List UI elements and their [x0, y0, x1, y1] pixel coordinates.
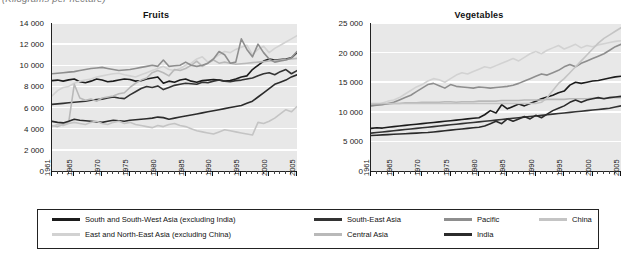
legend-item[interactable]: South and South-West Asia (excluding Ind…: [52, 215, 236, 224]
x-tick: [523, 171, 524, 174]
legend-label: East and North-East Asia (excluding Chin…: [85, 230, 231, 239]
plot-area-fruits: [51, 23, 297, 172]
x-tick: [168, 171, 169, 174]
x-tick: [107, 171, 108, 174]
x-tick: [512, 171, 513, 174]
y-tick-label: 20 000: [339, 48, 363, 57]
x-tick: [140, 171, 141, 174]
x-tick: [174, 171, 175, 174]
x-axis-labels-vegetables: 1961196519701975198019851990199520002005: [370, 176, 620, 210]
y-tick-label: 12 000: [20, 40, 44, 49]
y-tick-label: 6 000: [24, 103, 44, 112]
legend-item[interactable]: East and North-East Asia (excluding Chin…: [52, 230, 231, 239]
x-tick-label: 1980: [148, 159, 157, 176]
x-tick: [257, 171, 258, 174]
series-line: [371, 44, 621, 106]
legend-item[interactable]: Central Asia: [314, 230, 388, 239]
x-tick: [540, 171, 541, 174]
x-tick: [518, 171, 519, 174]
chart-panel-fruits: Fruits 02 0004 0006 0008 00010 00012 000…: [6, 10, 306, 23]
x-tick: [410, 171, 411, 174]
y-tick-label: 10 000: [339, 107, 363, 116]
series-line: [52, 39, 297, 74]
x-tick: [597, 171, 598, 174]
legend-item[interactable]: China: [539, 215, 592, 224]
x-tick-label: 1970: [93, 159, 102, 176]
x-tick: [489, 171, 490, 174]
y-tick-label: 4 000: [24, 124, 44, 133]
x-tick: [246, 171, 247, 174]
x-tick: [552, 171, 553, 174]
x-tick: [90, 171, 91, 174]
x-tick: [455, 171, 456, 174]
legend-swatch: [314, 218, 342, 222]
x-tick: [438, 171, 439, 174]
x-tick: [484, 171, 485, 174]
legend-swatch: [444, 233, 472, 237]
chart-legend: South and South-West Asia (excluding Ind…: [37, 209, 599, 249]
legend-swatch: [52, 233, 80, 236]
x-tick-label: 1995: [232, 159, 241, 176]
x-tick: [190, 171, 191, 174]
x-tick: [162, 171, 163, 174]
legend-label: South-East Asia: [347, 215, 401, 224]
x-tick: [201, 171, 202, 174]
x-tick: [274, 171, 275, 174]
y-tick-label: 10 000: [20, 61, 44, 70]
chart-title-fruits: Fruits: [6, 10, 306, 20]
x-tick: [461, 171, 462, 174]
x-tick: [404, 171, 405, 174]
x-tick: [546, 171, 547, 174]
chart-panel-vegetables: Vegetables 05 00010 00015 00020 00025 00…: [325, 10, 633, 23]
x-tick-label: 1965: [65, 159, 74, 176]
x-tick: [79, 171, 80, 174]
x-tick-label: 1985: [498, 159, 507, 176]
x-tick: [224, 171, 225, 174]
x-tick-label: 1995: [555, 159, 564, 176]
x-tick: [112, 171, 113, 174]
y-axis-labels-fruits: 02 0004 0006 0008 00010 00012 00014 000: [6, 23, 48, 171]
series-line: [371, 106, 621, 133]
x-tick: [279, 171, 280, 174]
x-tick-label: 1990: [526, 159, 535, 176]
unit-caption: (Kilograms per hectare): [2, 0, 106, 4]
x-tick-label: 2000: [583, 159, 592, 176]
x-tick: [84, 171, 85, 174]
legend-swatch: [314, 233, 342, 236]
legend-label: Pacific: [477, 215, 499, 224]
x-tick: [467, 171, 468, 174]
x-axis-labels-fruits: 1961196519701975198019851990199520002005: [51, 176, 296, 210]
x-tick: [196, 171, 197, 174]
series-lines: [52, 23, 297, 171]
x-tick: [218, 171, 219, 174]
x-tick: [495, 171, 496, 174]
y-tick-label: 14 000: [20, 19, 44, 28]
legend-label: Central Asia: [347, 230, 388, 239]
x-tick: [118, 171, 119, 174]
x-tick-label: 1975: [441, 159, 450, 176]
legend-label: China: [572, 215, 592, 224]
x-tick-label: 1961: [362, 159, 371, 176]
x-tick-label: 1985: [176, 159, 185, 176]
x-tick: [609, 171, 610, 174]
x-tick: [603, 171, 604, 174]
legend-item[interactable]: Pacific: [444, 215, 499, 224]
y-tick-label: 2 000: [24, 145, 44, 154]
x-tick-label: 2000: [260, 159, 269, 176]
y-tick-label: 25 000: [339, 19, 363, 28]
x-tick: [251, 171, 252, 174]
x-tick-label: 1975: [120, 159, 129, 176]
x-tick: [381, 171, 382, 174]
y-axis-labels-vegetables: 05 00010 00015 00020 00025 000: [325, 23, 367, 171]
legend-label: India: [477, 230, 493, 239]
legend-item[interactable]: South-East Asia: [314, 215, 401, 224]
x-tick: [427, 171, 428, 174]
x-tick: [376, 171, 377, 174]
legend-swatch: [539, 218, 567, 221]
legend-swatch: [444, 218, 472, 222]
x-tick: [580, 171, 581, 174]
x-tick: [285, 171, 286, 174]
x-tick-label: 1990: [204, 159, 213, 176]
x-tick: [433, 171, 434, 174]
legend-item[interactable]: India: [444, 230, 493, 239]
